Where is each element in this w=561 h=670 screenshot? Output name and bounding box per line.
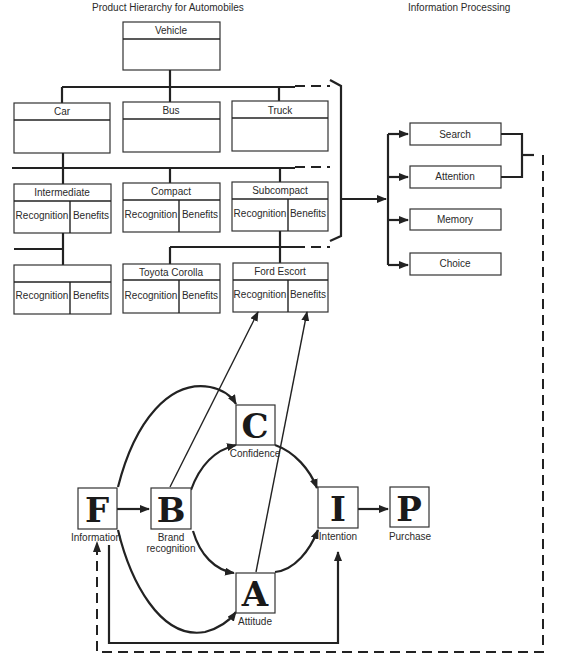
svg-text:Subcompact: Subcompact bbox=[252, 185, 308, 196]
svg-text:Choice: Choice bbox=[439, 258, 471, 269]
hierarchy-bracket bbox=[330, 80, 341, 241]
step-memory: Memory bbox=[410, 209, 501, 230]
node-b-brand-recognition: B Brand recognition bbox=[147, 488, 196, 554]
svg-text:Bus: Bus bbox=[162, 105, 179, 116]
node-f-information: F Information bbox=[71, 488, 121, 543]
processing-title: Information Processing bbox=[408, 2, 510, 13]
svg-text:Benefits: Benefits bbox=[182, 209, 218, 220]
node-p-purchase: P Purchase bbox=[389, 487, 432, 542]
hierarchy-title: Product Hierarchy for Automobiles bbox=[92, 2, 244, 13]
svg-text:C: C bbox=[241, 406, 268, 446]
node-ford-escort: Ford Escort Recognition Benefits bbox=[233, 263, 328, 312]
node-unnamed-model: Recognition Benefits bbox=[14, 265, 111, 314]
node-compact: Compact Recognition Benefits bbox=[123, 183, 220, 232]
svg-text:P: P bbox=[396, 489, 422, 529]
svg-text:Intermediate: Intermediate bbox=[34, 187, 90, 198]
svg-text:F: F bbox=[85, 490, 109, 530]
svg-text:Recognition: Recognition bbox=[125, 209, 178, 220]
svg-text:Confidence: Confidence bbox=[230, 448, 281, 459]
svg-text:Information: Information bbox=[71, 532, 121, 543]
svg-text:Toyota Corolla: Toyota Corolla bbox=[139, 267, 203, 278]
node-vehicle: Vehicle bbox=[123, 22, 220, 70]
svg-text:Recognition: Recognition bbox=[125, 290, 178, 301]
node-subcompact: Subcompact Recognition Benefits bbox=[232, 182, 328, 231]
svg-text:Truck: Truck bbox=[268, 105, 294, 116]
step-choice: Choice bbox=[410, 253, 501, 275]
svg-text:Benefits: Benefits bbox=[182, 290, 218, 301]
svg-text:B: B bbox=[157, 490, 186, 530]
svg-text:Benefits: Benefits bbox=[290, 208, 326, 219]
svg-text:Benefits: Benefits bbox=[73, 210, 109, 221]
node-intermediate: Intermediate Recognition Benefits bbox=[14, 184, 111, 233]
svg-text:Memory: Memory bbox=[437, 214, 473, 225]
svg-text:Brand: Brand bbox=[158, 532, 185, 543]
svg-text:Ford Escort: Ford Escort bbox=[254, 266, 306, 277]
svg-text:Recognition: Recognition bbox=[16, 210, 69, 221]
svg-text:Attitude: Attitude bbox=[238, 616, 272, 627]
svg-text:Intention: Intention bbox=[319, 531, 357, 542]
node-i-intention: I Intention bbox=[318, 487, 358, 542]
svg-text:Recognition: Recognition bbox=[234, 208, 287, 219]
svg-text:Search: Search bbox=[439, 129, 471, 140]
svg-text:Purchase: Purchase bbox=[389, 531, 432, 542]
svg-text:Benefits: Benefits bbox=[73, 290, 109, 301]
svg-text:I: I bbox=[330, 489, 346, 529]
node-a-attitude: A Attitude bbox=[236, 573, 275, 627]
node-truck: Truck bbox=[232, 101, 328, 151]
node-car: Car bbox=[14, 103, 110, 153]
consumer-decision-diagram: Product Hierarchy for Automobiles Inform… bbox=[0, 0, 561, 670]
svg-text:Car: Car bbox=[54, 106, 71, 117]
step-search: Search bbox=[410, 123, 501, 145]
svg-text:Benefits: Benefits bbox=[290, 289, 326, 300]
step-attention: Attention bbox=[410, 166, 501, 188]
svg-text:Recognition: Recognition bbox=[16, 290, 69, 301]
svg-text:A: A bbox=[241, 574, 269, 614]
svg-text:Compact: Compact bbox=[151, 186, 191, 197]
node-toyota-corolla: Toyota Corolla Recognition Benefits bbox=[123, 264, 220, 313]
svg-text:Recognition: Recognition bbox=[234, 289, 287, 300]
node-c-confidence: C Confidence bbox=[230, 405, 281, 459]
svg-text:Attention: Attention bbox=[435, 171, 474, 182]
svg-text:recognition: recognition bbox=[147, 543, 196, 554]
node-bus: Bus bbox=[123, 102, 220, 152]
svg-text:Vehicle: Vehicle bbox=[155, 25, 188, 36]
